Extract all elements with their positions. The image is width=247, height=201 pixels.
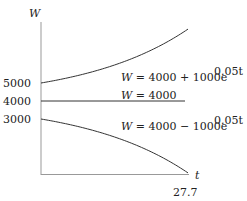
x-axis-label: t xyxy=(195,169,200,182)
y-tick-5000: 5000 xyxy=(3,77,31,90)
y-tick-4000: 4000 xyxy=(3,95,31,108)
chart: W t 27.7 5000 4000 3000 W = 4000 + 1000e… xyxy=(0,0,247,201)
lower-curve-exponent: 0.05t xyxy=(214,114,243,127)
y-tick-3000: 3000 xyxy=(3,113,31,126)
lower-curve-label: W = 4000 − 1000e xyxy=(121,120,227,133)
upper-curve-exponent: 0.05t xyxy=(214,65,243,78)
upper-curve-label: W = 4000 + 1000e xyxy=(121,71,227,84)
x-tick-label: 27.7 xyxy=(173,186,198,199)
y-axis-label: W xyxy=(29,7,42,20)
equilibrium-line-label: W = 4000 xyxy=(121,89,177,102)
